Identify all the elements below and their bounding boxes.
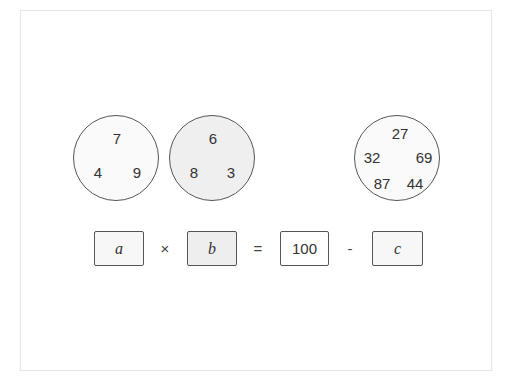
circle-2: 6 8 3 bbox=[169, 115, 255, 201]
circle-3-number-bottom-left: 87 bbox=[374, 176, 391, 191]
equals-operator: = bbox=[254, 240, 263, 257]
circle-1: 7 4 9 bbox=[73, 115, 159, 201]
circle-1-number-left: 4 bbox=[94, 165, 102, 180]
circle-3-number-left: 32 bbox=[364, 150, 381, 165]
variable-c-box[interactable]: c bbox=[372, 231, 423, 266]
constant-box: 100 bbox=[280, 231, 329, 266]
circle-2-number-top: 6 bbox=[209, 131, 217, 146]
minus-operator: - bbox=[348, 240, 353, 257]
circle-3-number-bottom-right: 44 bbox=[407, 176, 424, 191]
variable-b-box[interactable]: b bbox=[187, 231, 237, 266]
circle-1-number-top: 7 bbox=[113, 131, 121, 146]
circle-2-number-left: 8 bbox=[190, 165, 198, 180]
circle-3: 27 32 69 87 44 bbox=[354, 115, 440, 201]
variable-a-box[interactable]: a bbox=[94, 231, 144, 266]
circle-3-number-right: 69 bbox=[416, 150, 433, 165]
times-operator: × bbox=[161, 240, 170, 257]
circle-3-number-top: 27 bbox=[392, 126, 409, 141]
circle-2-number-right: 3 bbox=[227, 165, 235, 180]
circle-1-number-right: 9 bbox=[133, 165, 141, 180]
